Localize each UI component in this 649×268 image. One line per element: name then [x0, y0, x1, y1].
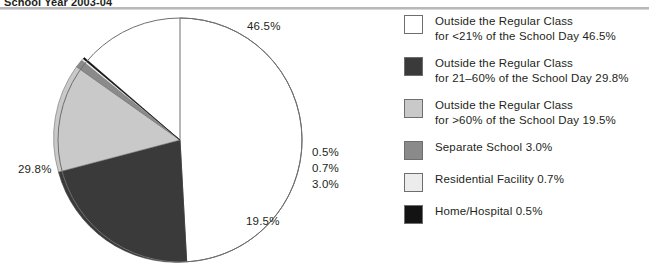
legend-label-line1: Outside the Regular Class [435, 15, 573, 27]
legend-item-lt21[interactable]: Outside the Regular Class for <21% of th… [404, 14, 649, 43]
pie-chart-svg [0, 12, 395, 268]
legend-label-line1: Separate School 3.0% [435, 141, 552, 153]
legend-label: Separate School 3.0% [435, 140, 552, 155]
legend-label-line1: Residential Facility 0.7% [435, 173, 564, 185]
legend-label: Outside the Regular Class for <21% of th… [435, 14, 616, 43]
legend-swatch-icon [404, 173, 423, 192]
header-divider-shadow [0, 9, 649, 10]
legend-label: Outside the Regular Class for >60% of th… [435, 98, 616, 127]
pie-label-residential-facility: 0.7% [312, 162, 339, 174]
legend-item-home-hospital[interactable]: Home/Hospital 0.5% [404, 204, 649, 224]
legend-swatch-icon [404, 99, 423, 118]
legend-label-line2: for <21% of the School Day 46.5% [435, 29, 616, 44]
legend-item-residential-facility[interactable]: Residential Facility 0.7% [404, 172, 649, 192]
legend-label: Home/Hospital 0.5% [435, 204, 543, 219]
legend-item-gt60[interactable]: Outside the Regular Class for >60% of th… [404, 98, 649, 127]
legend-label: Residential Facility 0.7% [435, 172, 564, 187]
chart-area: 46.5% 29.8% 19.5% 0.5% 0.7% 3.0% [0, 12, 395, 268]
legend-swatch-icon [404, 141, 423, 160]
legend-item-separate-school[interactable]: Separate School 3.0% [404, 140, 649, 160]
pie-label-21-60: 29.8% [18, 163, 52, 175]
legend-swatch-icon [404, 57, 423, 76]
pie-chart-figure: School Year 2003-04 46.5% 29.8% 19.5% 0.… [0, 0, 649, 268]
pie-label-lt21: 46.5% [247, 20, 281, 32]
legend-label-line1: Outside the Regular Class [435, 57, 573, 69]
legend-swatch-icon [404, 205, 423, 224]
pie-label-separate-school: 3.0% [312, 178, 339, 190]
legend-label-line1: Outside the Regular Class [435, 99, 573, 111]
legend-label: Outside the Regular Class for 21–60% of … [435, 56, 629, 85]
pie-slice-outside-regular-class-lt21[interactable] [180, 18, 302, 262]
legend-label-line1: Home/Hospital 0.5% [435, 205, 543, 217]
legend-item-21-60[interactable]: Outside the Regular Class for 21–60% of … [404, 56, 649, 85]
legend-label-line2: for >60% of the School Day 19.5% [435, 113, 616, 128]
legend-swatch-icon [404, 15, 423, 34]
chart-legend: Outside the Regular Class for <21% of th… [404, 14, 649, 236]
pie-label-gt60: 19.5% [246, 215, 280, 227]
legend-label-line2: for 21–60% of the School Day 29.8% [435, 71, 629, 86]
pie-label-home-hospital: 0.5% [312, 146, 339, 158]
